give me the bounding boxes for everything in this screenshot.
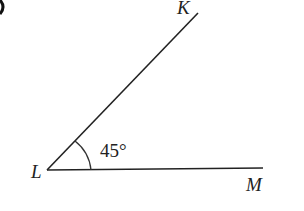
angle-label: 45°: [100, 140, 127, 161]
ray-lm: [47, 168, 263, 170]
angle-arc: [75, 141, 91, 170]
label-m: M: [245, 174, 263, 195]
label-k: K: [176, 0, 191, 18]
label-l: L: [30, 161, 42, 182]
partial-glyph: [0, 0, 3, 14]
angle-diagram: 45° K L M: [0, 0, 304, 211]
